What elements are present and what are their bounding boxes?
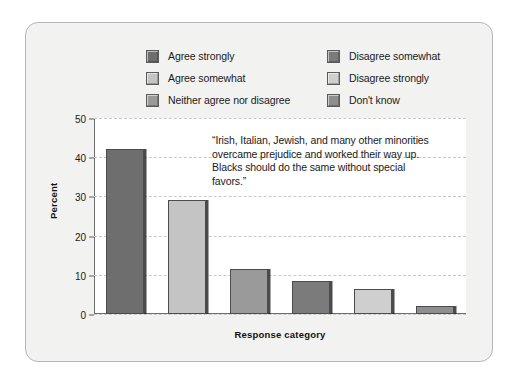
y-tick-label: 20	[75, 231, 86, 242]
bar	[230, 269, 268, 314]
y-tick-label: 10	[75, 270, 86, 281]
gridline: 0	[94, 314, 466, 315]
plot-wrapper: Percent 01020304050 “Irish, Italian, Jew…	[26, 23, 492, 361]
bar	[354, 289, 392, 314]
y-tick-mark	[89, 315, 94, 316]
y-tick-label: 40	[75, 153, 86, 164]
y-tick-label: 0	[80, 310, 86, 321]
x-axis-title: Response category	[94, 329, 466, 340]
y-axis-title: Percent	[48, 183, 59, 219]
bar	[106, 149, 144, 314]
chart-card: Agree strongly Agree somewhat Neither ag…	[25, 22, 493, 362]
bar	[416, 306, 454, 314]
y-tick-label: 30	[75, 192, 86, 203]
plot-area: 01020304050 “Irish, Italian, Jewish, and…	[94, 118, 466, 314]
y-tick-label: 50	[75, 114, 86, 125]
quote-annotation: “Irish, Italian, Jewish, and many other …	[212, 134, 438, 188]
bar	[292, 281, 330, 314]
bar	[168, 200, 206, 314]
